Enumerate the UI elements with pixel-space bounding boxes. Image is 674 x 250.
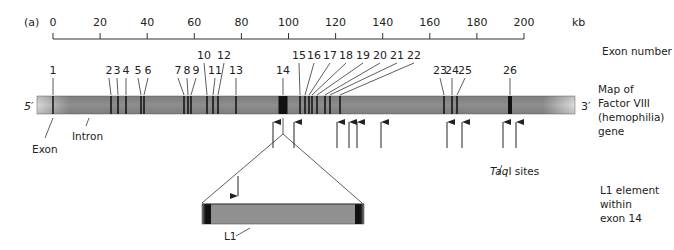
exon-number-label: 2 — [106, 64, 113, 77]
exon-band — [451, 96, 453, 114]
exon-band — [52, 96, 54, 114]
exon-band — [304, 96, 306, 114]
exon-band — [143, 96, 145, 114]
taqi-sites-label: TaqI sites — [490, 165, 539, 177]
exon-number-labels: 1234567891011121314151617181920212223242… — [50, 49, 518, 95]
exon-band — [190, 96, 192, 114]
exon-band — [110, 96, 112, 114]
exon-number-label: 16 — [307, 49, 321, 62]
exon-band — [140, 96, 142, 114]
exon-band — [235, 96, 237, 114]
exon14-expansion-lines — [202, 118, 362, 203]
exon-band — [329, 96, 331, 114]
exon-band — [299, 96, 301, 114]
exon-number-label: 21 — [390, 49, 404, 62]
factor-viii-gene-diagram: (a) 020406080100120140160180200 kb 12345… — [0, 0, 674, 250]
l1-pointer-line — [236, 228, 250, 236]
exon-band — [212, 96, 214, 114]
panel-label: (a) — [24, 16, 39, 29]
intron-pointer-line — [86, 118, 89, 126]
exon-number-label: 19 — [356, 49, 370, 62]
gene-map-heading: Map of Factor VIII (hemophilia) gene — [598, 82, 664, 138]
intron-label: Intron — [72, 130, 103, 142]
exon-number-label: 8 — [184, 64, 191, 77]
exon-number-label: 1 — [50, 64, 57, 77]
gene-map-bar — [37, 96, 575, 114]
exon-band — [217, 96, 219, 114]
axis-tick-label: 60 — [187, 16, 201, 29]
exon-number-label: 24 — [445, 64, 459, 77]
exon-band — [456, 96, 458, 114]
exon-band — [183, 96, 185, 114]
exon-number-label: 17 — [323, 49, 337, 62]
exon-band — [339, 96, 341, 114]
exon-number-label: 11 — [208, 64, 222, 77]
exon-pointer-line — [45, 118, 53, 138]
axis-tick-label: 120 — [325, 16, 346, 29]
three-prime-label: 3′ — [581, 100, 591, 113]
exon-band — [311, 96, 313, 114]
exon-number-heading: Exon number — [602, 44, 672, 58]
exon-number-label: 7 — [175, 64, 182, 77]
taqi-site-arrows — [273, 122, 516, 148]
axis-tick-label: 140 — [372, 16, 393, 29]
exon-band — [279, 96, 288, 114]
exon-number-label: 9 — [193, 64, 200, 77]
axis-tick-label: 80 — [234, 16, 248, 29]
axis-tick-label: 180 — [466, 16, 487, 29]
axis-tick-label: 160 — [419, 16, 440, 29]
exon-number-label: 3 — [114, 64, 121, 77]
axis-tick-label: 100 — [278, 16, 299, 29]
exon-number-label: 20 — [373, 49, 387, 62]
axis-tick-label: 40 — [140, 16, 154, 29]
axis-tick-label: 20 — [93, 16, 107, 29]
exon-band — [125, 96, 127, 114]
exon-number-label: 4 — [123, 64, 130, 77]
kb-axis: 020406080100120140160180200 kb — [50, 16, 586, 39]
l1-element-heading: L1 element within exon 14 — [600, 183, 659, 225]
exon-band — [117, 96, 119, 114]
l1-element-bar — [202, 204, 364, 224]
exon-band — [206, 96, 208, 114]
exon-band — [187, 96, 189, 114]
exon-band — [508, 96, 512, 114]
exon-number-label: 26 — [503, 64, 517, 77]
exon-number-label: 18 — [339, 49, 353, 62]
axis-tick-label: 0 — [50, 16, 57, 29]
exon-band — [316, 96, 318, 114]
exon-band — [308, 96, 310, 114]
exon-number-label: 5 — [135, 64, 142, 77]
exon-number-label: 13 — [229, 64, 243, 77]
exon-number-label: 14 — [276, 64, 290, 77]
axis-unit: kb — [572, 16, 585, 29]
exon-label: Exon — [32, 143, 58, 155]
exon-number-label: 25 — [458, 64, 472, 77]
exon-band — [443, 96, 445, 114]
exon-number-label: 10 — [197, 49, 211, 62]
exon-number-label: 15 — [292, 49, 306, 62]
exon-number-label: 22 — [407, 49, 421, 62]
axis-tick-label: 200 — [514, 16, 535, 29]
l1-label: L1 — [224, 230, 237, 242]
exon-number-label: 6 — [145, 64, 152, 77]
exon-band — [324, 96, 326, 114]
five-prime-label: 5′ — [24, 100, 34, 113]
exon-number-label: 12 — [217, 49, 231, 62]
